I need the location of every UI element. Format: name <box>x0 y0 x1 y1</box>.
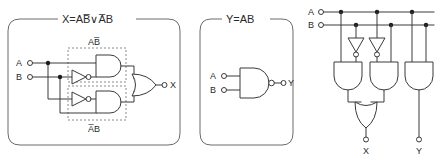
output-terminal-y[interactable] <box>417 137 422 142</box>
panel-nand-title: Y=AB <box>226 13 254 25</box>
group-label-ab-not: AB̅ <box>88 37 100 47</box>
output-label-y: Y <box>288 78 294 88</box>
input-terminal-a[interactable] <box>222 74 227 79</box>
wire-and-mid-out <box>371 90 384 102</box>
wire-and-lower-out <box>121 91 134 102</box>
output-terminal-x[interactable] <box>162 83 167 88</box>
and-upper <box>96 55 121 77</box>
inverter-mid <box>369 38 385 52</box>
input-label-b: B <box>210 85 216 95</box>
output-label-x: X <box>363 146 369 156</box>
diagram-canvas: X=AB̅∨A̅B AB̅ A̅B A B <box>0 0 440 159</box>
and-lower <box>96 91 121 113</box>
and-mid <box>370 62 398 90</box>
output-terminal-y[interactable] <box>281 81 286 86</box>
panel-nand: Y=AB A B Y <box>196 0 301 159</box>
inverter-a <box>72 92 86 106</box>
input-label-a: A <box>16 58 22 68</box>
panel-xor: X=AB̅∨A̅B AB̅ A̅B A B <box>0 0 190 159</box>
inverter-b-bubble <box>86 75 91 80</box>
input-terminal-b[interactable] <box>319 23 324 28</box>
input-terminal-b[interactable] <box>28 75 33 80</box>
input-terminal-b[interactable] <box>222 88 227 93</box>
junction-a <box>46 61 50 65</box>
group-label-not-ab: A̅B <box>88 124 100 134</box>
input-label-a: A <box>210 71 216 81</box>
panel-combined: A B <box>306 0 440 159</box>
output-label-x: X <box>170 80 176 90</box>
inverter-b <box>72 70 86 84</box>
wire-and-left-out <box>348 90 361 102</box>
junction-b <box>58 75 62 79</box>
and-right <box>405 62 433 90</box>
and-left <box>334 62 362 90</box>
input-label-b: B <box>16 72 22 82</box>
nand-gate-bubble <box>269 80 275 86</box>
input-label-a: A <box>308 7 314 17</box>
inverter-left <box>348 38 364 52</box>
inverter-mid-bubble <box>375 52 380 57</box>
inverter-left-bubble <box>354 52 359 57</box>
input-label-b: B <box>308 20 314 30</box>
wire-and-upper-out <box>121 66 134 79</box>
or-output <box>132 74 156 96</box>
panel-xor-title: X=AB̅∨A̅B <box>62 13 113 25</box>
or-bottom <box>355 102 377 128</box>
input-terminal-a[interactable] <box>28 61 33 66</box>
output-terminal-x[interactable] <box>364 137 369 142</box>
nand-gate <box>240 68 269 98</box>
output-label-y: Y <box>416 146 422 156</box>
input-terminal-a[interactable] <box>319 10 324 15</box>
inverter-a-bubble <box>86 97 91 102</box>
